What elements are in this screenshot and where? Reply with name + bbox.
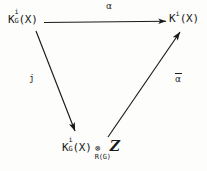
- node-bottom-superscript: i: [68, 137, 72, 144]
- arrow-alpha-line: [44, 21, 166, 22]
- node-topright-superscript: i: [175, 10, 179, 18]
- node-topleft-subscript: G: [14, 18, 18, 25]
- arrow-label-j: j: [29, 74, 34, 83]
- integers-set-symbol: Z: [110, 138, 119, 154]
- node-topleft-argument: (X): [18, 13, 37, 26]
- node-bottom-argument: (X): [72, 141, 91, 154]
- arrow-j-line: [36, 31, 75, 131]
- node-k-theory: Ki(X): [169, 12, 199, 24]
- alpha-glyph: α: [106, 1, 112, 11]
- alpha-bar-glyph: α: [175, 74, 181, 84]
- commutative-diagram: KiG(X) Ki(X) KiG(X)⊗R(G)Z α j α: [0, 0, 207, 171]
- node-bottom-subscript: G: [68, 146, 72, 153]
- arrow-label-alpha: α: [106, 2, 112, 11]
- node-topleft-superscript: i: [14, 9, 18, 16]
- tensor-symbol: ⊗: [95, 143, 100, 153]
- node-tensor-product: KiG(X)⊗R(G)Z: [62, 139, 119, 153]
- tensor-subscript: R(G): [92, 154, 114, 161]
- arrow-label-alpha-bar: α: [175, 73, 182, 84]
- node-equivariant-k-theory: KiG(X): [8, 12, 38, 25]
- j-glyph: j: [29, 73, 34, 83]
- node-topleft-scripts: iG: [14, 12, 18, 23]
- arrow-alpha-bar-line: [108, 32, 180, 137]
- node-bottom-scripts: iG: [68, 140, 72, 151]
- tensor-product-icon: ⊗R(G): [92, 144, 104, 153]
- node-topright-argument: (X): [180, 12, 199, 25]
